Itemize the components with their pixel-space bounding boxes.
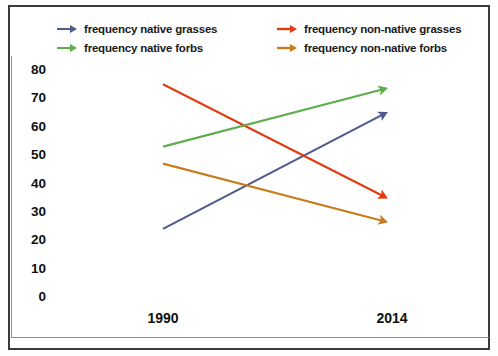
chart-series-svg — [0, 0, 498, 356]
series-line — [163, 113, 386, 229]
series-line — [163, 84, 386, 197]
series-line — [163, 164, 386, 222]
series-line — [163, 89, 386, 147]
chart-plot-area: 80 70 60 50 40 30 20 10 0 1990 2014 — [0, 0, 498, 356]
chart-screenshot: frequency native grasses frequency nativ… — [0, 0, 498, 356]
